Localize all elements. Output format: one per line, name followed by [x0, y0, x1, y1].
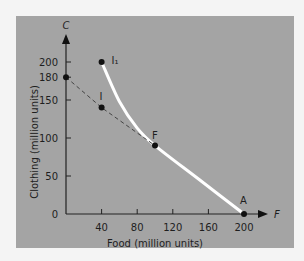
y-tick-label: 150 — [39, 95, 58, 106]
x-tick-label: 120 — [163, 222, 182, 233]
data-point — [63, 74, 69, 80]
x-axis-title: Food (million units) — [107, 238, 203, 249]
ppf-curve — [102, 62, 244, 214]
chart: CF0501001501802004080120160200Food (mill… — [0, 0, 304, 261]
x-tick-label: 80 — [131, 222, 144, 233]
x-tick-label: 200 — [234, 222, 253, 233]
y-axis-symbol: C — [63, 20, 70, 31]
point-label: A — [240, 195, 247, 206]
y-tick-label: 180 — [39, 72, 58, 83]
data-point — [152, 143, 158, 149]
point-label: F — [152, 130, 158, 141]
x-axis-arrow-icon — [258, 210, 268, 218]
data-point — [99, 59, 105, 65]
y-tick-label: 100 — [39, 133, 58, 144]
x-tick-label: 160 — [199, 222, 218, 233]
x-axis-symbol: F — [274, 209, 280, 220]
y-axis-arrow-icon — [62, 34, 70, 44]
x-tick-label: 40 — [95, 222, 108, 233]
y-axis-title: Clothing (million units) — [29, 85, 40, 199]
y-tick-label: 200 — [39, 57, 58, 68]
y-tick-label: 50 — [45, 171, 58, 182]
point-label: I — [100, 91, 103, 102]
y-tick-label: 0 — [52, 209, 58, 220]
data-point — [241, 211, 247, 217]
data-point — [99, 105, 105, 111]
point-label: I₁ — [112, 55, 119, 66]
